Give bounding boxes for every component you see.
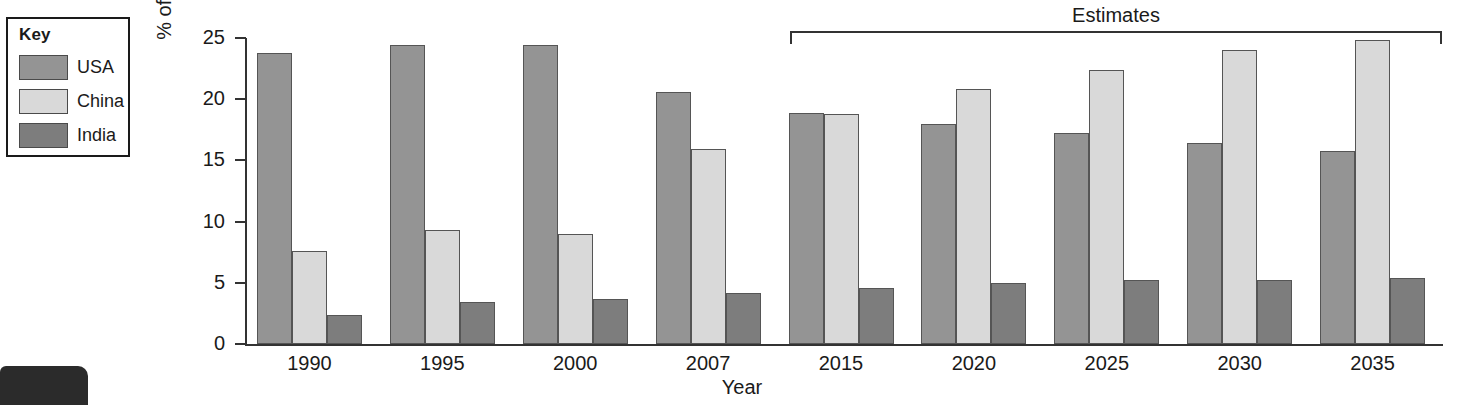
y-tick-15 — [235, 159, 246, 161]
x-tick-label-2025: 2025 — [1057, 352, 1157, 375]
x-tick-label-1990: 1990 — [259, 352, 359, 375]
bar-group-2007 — [656, 38, 761, 344]
bar-india-2007 — [726, 293, 761, 344]
bar-usa-2030 — [1187, 143, 1222, 344]
bar-chart-plot-area — [247, 38, 1443, 344]
page-edge-artifact — [0, 366, 88, 405]
legend-item-china: China — [19, 84, 128, 118]
y-tick-20 — [235, 98, 246, 100]
x-tick-label-1995: 1995 — [392, 352, 492, 375]
y-tick-label-5: 5 — [165, 272, 225, 292]
bar-group-2015 — [789, 38, 894, 344]
bar-china-2035 — [1355, 40, 1390, 344]
estimates-annotation-label: Estimates — [790, 4, 1442, 27]
bar-china-2007 — [691, 149, 726, 344]
bar-china-1990 — [292, 251, 327, 344]
x-tick-label-2035: 2035 — [1323, 352, 1423, 375]
bar-usa-2025 — [1054, 133, 1089, 344]
bar-group-2035 — [1320, 38, 1425, 344]
bar-china-2020 — [956, 89, 991, 344]
y-tick-25 — [235, 37, 246, 39]
legend-key-box: Key USA China India — [6, 17, 130, 157]
bar-usa-1990 — [257, 53, 292, 344]
x-axis-line — [247, 344, 1443, 346]
y-tick-5 — [235, 282, 246, 284]
bar-usa-2007 — [656, 92, 691, 344]
legend-item-india: India — [19, 118, 128, 152]
bar-usa-2000 — [523, 45, 558, 344]
x-axis-title: Year — [0, 376, 1484, 399]
y-tick-label-10: 10 — [165, 211, 225, 231]
bar-usa-2015 — [789, 113, 824, 344]
bar-india-2025 — [1124, 280, 1159, 344]
x-tick-label-2020: 2020 — [924, 352, 1024, 375]
y-tick-label-0: 0 — [165, 333, 225, 353]
bar-india-2020 — [991, 283, 1026, 344]
bar-group-2025 — [1054, 38, 1159, 344]
bar-usa-2035 — [1320, 151, 1355, 344]
bar-india-2035 — [1390, 278, 1425, 344]
legend-label-india: India — [77, 126, 116, 144]
x-tick-label-2007: 2007 — [658, 352, 758, 375]
y-axis-line — [245, 38, 247, 346]
x-tick-label-2000: 2000 — [525, 352, 625, 375]
y-tick-label-25: 25 — [165, 27, 225, 47]
bar-china-2000 — [558, 234, 593, 344]
bar-group-1990 — [257, 38, 362, 344]
legend-swatch-usa — [19, 55, 68, 80]
bar-china-2025 — [1089, 70, 1124, 344]
x-tick-label-2015: 2015 — [791, 352, 891, 375]
bar-usa-1995 — [390, 45, 425, 344]
bar-group-2020 — [921, 38, 1026, 344]
bar-china-2030 — [1222, 50, 1257, 344]
bar-usa-2020 — [921, 124, 956, 344]
bar-india-2030 — [1257, 280, 1292, 344]
y-tick-label-20: 20 — [165, 88, 225, 108]
legend-swatch-china — [19, 89, 68, 114]
bar-group-2000 — [523, 38, 628, 344]
bar-group-1995 — [390, 38, 495, 344]
bar-india-1995 — [460, 302, 495, 344]
legend-swatch-india — [19, 123, 68, 148]
x-tick-label-2030: 2030 — [1190, 352, 1290, 375]
legend-title: Key — [19, 26, 128, 43]
bar-india-1990 — [327, 315, 362, 344]
y-tick-10 — [235, 221, 246, 223]
y-tick-label-15: 15 — [165, 149, 225, 169]
bar-group-2030 — [1187, 38, 1292, 344]
legend-item-usa: USA — [19, 50, 128, 84]
bar-china-1995 — [425, 230, 460, 344]
bar-china-2015 — [824, 114, 859, 344]
legend-label-china: China — [77, 92, 124, 110]
bar-india-2000 — [593, 299, 628, 344]
legend-label-usa: USA — [77, 58, 114, 76]
y-tick-0 — [235, 343, 246, 345]
bar-india-2015 — [859, 288, 894, 344]
